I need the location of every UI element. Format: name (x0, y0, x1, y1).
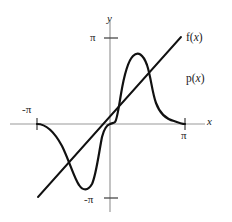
curve-label-p-of-x: p(x) (186, 73, 205, 85)
y-tick-label-neg-pi: -π (84, 194, 93, 205)
curve-p-of-x (37, 54, 185, 190)
curve-label-f-close: ) (199, 31, 203, 43)
y-axis-label: y (107, 13, 112, 24)
y-tick-label-pi: π (90, 32, 96, 43)
curve-label-f-of-x: f(x) (186, 32, 203, 44)
x-axis-label: x (207, 116, 212, 127)
x-tick-label-pi: π (181, 130, 187, 141)
x-tick-label-neg-pi: -π (22, 104, 31, 115)
curve-label-p-close: ) (201, 72, 205, 84)
function-plot-figure: y x π -π -π π f(x) p(x) (0, 0, 232, 222)
